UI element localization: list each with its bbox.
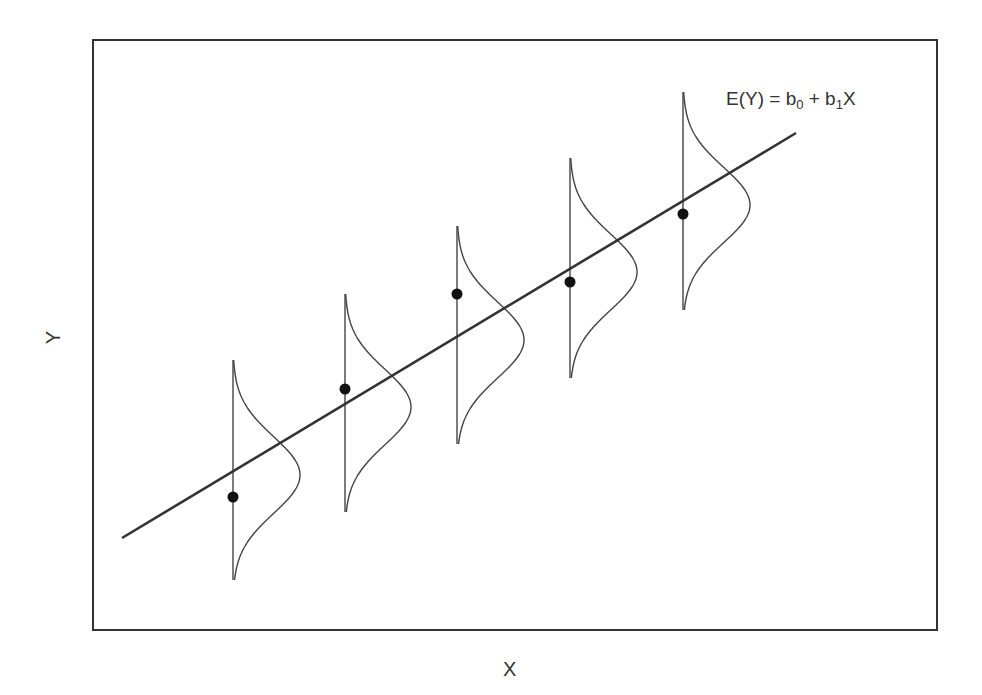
normal-curve [684,92,750,310]
normal-curve [346,294,411,512]
y-axis-label: Y [42,331,65,344]
normal-distributions [233,92,750,580]
normal-curve [571,158,637,378]
data-point [452,289,463,300]
x-axis-label: X [503,658,516,681]
data-point [678,209,689,220]
equation-label: E(Y) = b0 + b1X [726,88,856,112]
regression-line [122,133,796,538]
data-point [228,492,239,503]
plot-frame [93,40,937,630]
data-point [340,384,351,395]
data-point [565,277,576,288]
data-points [228,209,689,503]
normal-curve [458,226,524,444]
normal-curve [234,360,300,580]
